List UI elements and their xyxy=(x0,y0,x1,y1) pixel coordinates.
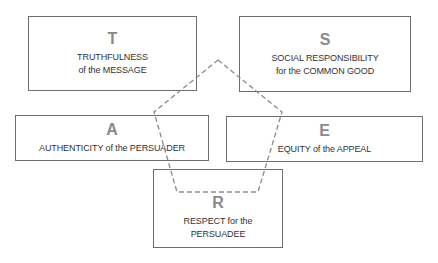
caption-respect-line1: RESPECT for the xyxy=(184,215,253,228)
box-authenticity: A AUTHENTICITY of the PERSUADER xyxy=(15,115,209,161)
box-respect: R RESPECT for the PERSUADEE xyxy=(153,169,283,248)
letter-r: R xyxy=(212,194,224,212)
letter-t: T xyxy=(108,30,118,48)
box-equity: E EQUITY of the APPEAL xyxy=(226,116,423,162)
caption-equity: EQUITY of the APPEAL xyxy=(278,143,371,156)
caption-authenticity: AUTHENTICITY of the PERSUADER xyxy=(39,142,185,155)
letter-s: S xyxy=(320,31,331,49)
caption-truthfulness-line2: of the MESSAGE xyxy=(78,64,146,77)
box-truthfulness: T TRUTHFULNESS of the MESSAGE xyxy=(28,16,197,91)
caption-truthfulness-line1: TRUTHFULNESS xyxy=(77,51,148,64)
caption-social-responsibility-line1: SOCIAL RESPONSIBILITY xyxy=(271,52,378,65)
letter-e: E xyxy=(319,122,330,140)
caption-respect-line2: PERSUADEE xyxy=(191,228,246,241)
box-social-responsibility: S SOCIAL RESPONSIBILITY for the COMMON G… xyxy=(239,16,411,92)
letter-a: A xyxy=(106,121,118,139)
caption-social-responsibility-line2: for the COMMON GOOD xyxy=(276,65,374,78)
